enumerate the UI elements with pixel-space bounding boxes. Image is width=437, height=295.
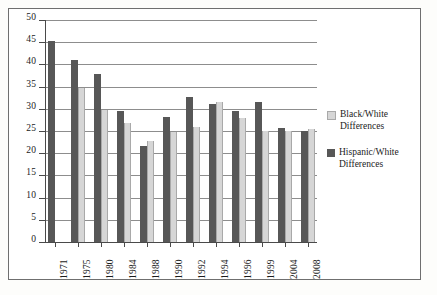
bar xyxy=(186,97,193,242)
bar xyxy=(232,111,239,242)
x-axis-tick-label: 1980 xyxy=(105,259,115,279)
legend-item: Black/White Differences xyxy=(327,109,427,132)
legend-label: Black/White Differences xyxy=(340,109,422,132)
bar xyxy=(301,131,308,242)
bar xyxy=(193,127,200,242)
legend-swatch-dark xyxy=(327,149,335,157)
bar xyxy=(140,146,147,242)
bar xyxy=(163,117,170,242)
chart-frame: 05101520253035404550 1971197519801984198… xyxy=(8,8,421,280)
bar xyxy=(239,118,246,242)
bar-series-container xyxy=(45,20,317,242)
bar-group xyxy=(209,20,223,242)
x-axis-tick-label: 1999 xyxy=(266,259,276,279)
legend-item: Hispanic/White Differences xyxy=(327,147,427,170)
bar xyxy=(209,104,216,242)
x-axis-tick-label: 1984 xyxy=(128,259,138,279)
y-axis-tick-label: 30 xyxy=(26,102,36,112)
bar xyxy=(78,88,85,243)
x-axis-tick-label: 1971 xyxy=(59,259,69,279)
bar xyxy=(278,128,285,242)
bar xyxy=(71,60,78,242)
y-axis-tick-label: 10 xyxy=(26,191,36,201)
plot-area xyxy=(45,20,317,242)
legend-label: Hispanic/White Differences xyxy=(339,147,421,170)
y-axis-tick-label: 25 xyxy=(26,124,36,134)
y-axis-tick-labels: 05101520253035404550 xyxy=(9,20,45,242)
legend-swatch-light xyxy=(327,111,336,120)
bar xyxy=(48,41,55,242)
bar xyxy=(255,102,262,242)
bar-group xyxy=(255,20,269,242)
bar xyxy=(117,111,124,242)
y-axis-tick-label: 0 xyxy=(31,235,36,245)
x-axis-tick-label: 1988 xyxy=(151,259,161,279)
bar-group xyxy=(232,20,246,242)
bar-group xyxy=(117,20,131,242)
bar-group xyxy=(94,20,108,242)
y-axis-tick-label: 20 xyxy=(26,146,36,156)
bar-group xyxy=(186,20,200,242)
bar xyxy=(147,141,154,242)
y-axis-tick-label: 40 xyxy=(26,57,36,67)
y-axis-tick-label: 45 xyxy=(26,35,36,45)
bar xyxy=(285,131,292,242)
x-axis-tick-labels: 1971197519801984198819901992199419961999… xyxy=(45,247,317,281)
bar xyxy=(262,131,269,242)
bar-group xyxy=(48,20,62,242)
bar xyxy=(124,123,131,242)
bar-group xyxy=(71,20,85,242)
bar-group xyxy=(140,20,154,242)
bar xyxy=(94,74,101,242)
x-axis-tick-label: 2004 xyxy=(289,259,299,279)
x-axis-tick-label: 2008 xyxy=(312,259,322,279)
x-axis-tick-label: 1994 xyxy=(220,259,230,279)
x-axis-tick-label: 1990 xyxy=(174,259,184,279)
chart-legend: Black/White DifferencesHispanic/White Di… xyxy=(327,109,427,185)
x-axis-tick-label: 1996 xyxy=(243,259,253,279)
x-axis-tick-label: 1975 xyxy=(82,259,92,279)
bar xyxy=(170,132,177,242)
bar-group xyxy=(163,20,177,242)
bar-group xyxy=(278,20,292,242)
bar xyxy=(308,129,315,242)
bar xyxy=(101,110,108,242)
x-axis-tick-label: 1992 xyxy=(197,259,207,279)
bar xyxy=(216,102,223,242)
y-axis-tick-label: 5 xyxy=(31,213,36,223)
y-axis-tick-label: 50 xyxy=(26,13,36,23)
y-axis-tick-label: 15 xyxy=(26,168,36,178)
y-axis-tick-label: 35 xyxy=(26,80,36,90)
bar-group xyxy=(301,20,315,242)
